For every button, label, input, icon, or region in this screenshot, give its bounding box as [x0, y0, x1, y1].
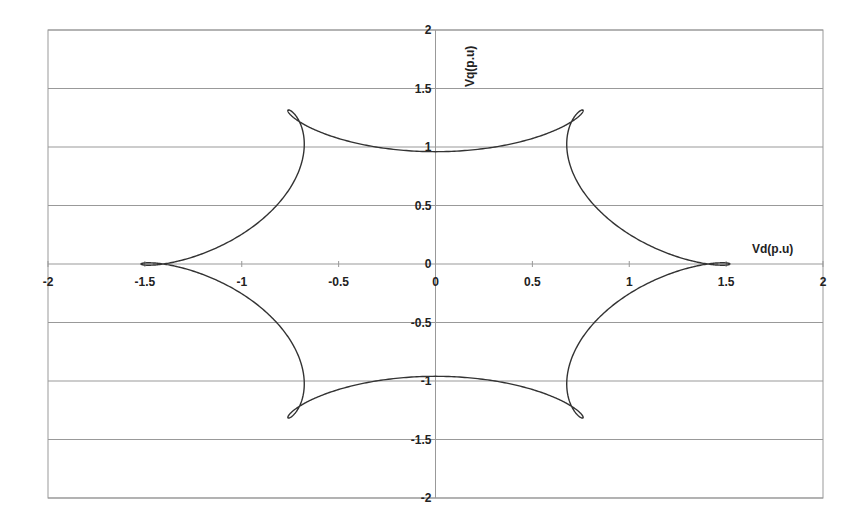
- x-tick-label: 0.5: [524, 275, 541, 289]
- x-tick-label: 2: [820, 275, 827, 289]
- x-tick-label: -0.5: [328, 275, 349, 289]
- chart: -2-1.5-1-0.500.511.52 21.510.50-0.5-1-1.…: [0, 0, 863, 529]
- y-tick-label: -2: [421, 491, 432, 505]
- y-tick-label: -1.5: [411, 433, 432, 447]
- y-tick-label: 0.5: [415, 199, 432, 213]
- x-tick-label: 1: [626, 275, 633, 289]
- x-axis-label: Vd(p.u): [752, 242, 793, 256]
- x-tick-label: -1: [236, 275, 247, 289]
- x-tick-label: 1.5: [718, 275, 735, 289]
- x-tick-label: -2: [43, 275, 54, 289]
- x-axis-ticks: -2-1.5-1-0.500.511.52: [43, 261, 827, 289]
- y-tick-label: 2: [425, 23, 432, 37]
- y-tick-label: -0.5: [411, 316, 432, 330]
- y-tick-label: 0: [425, 257, 432, 271]
- y-tick-label: 1.5: [415, 82, 432, 96]
- y-axis-label: Vq(p.u): [463, 46, 477, 87]
- x-tick-label: 0: [432, 275, 439, 289]
- x-tick-label: -1.5: [135, 275, 156, 289]
